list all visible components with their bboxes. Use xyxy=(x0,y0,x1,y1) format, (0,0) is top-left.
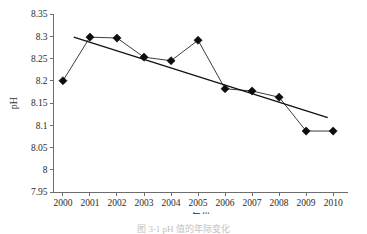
x-tick-label: 2000 xyxy=(53,198,72,208)
data-point-marker xyxy=(329,127,337,135)
ph-trend-chart: 7.9588.058.18.158.28.258.38.35 200020012… xyxy=(0,0,367,214)
y-axis-ticks: 7.9588.058.18.158.28.258.38.35 xyxy=(31,9,54,197)
x-axis-title: 年份 xyxy=(191,211,211,214)
data-point-marker xyxy=(59,77,67,85)
x-tick-label: 2008 xyxy=(270,198,289,208)
x-tick-label: 2004 xyxy=(162,198,181,208)
x-tick-label: 2003 xyxy=(135,198,154,208)
y-tick-label: 8.35 xyxy=(31,9,48,19)
data-point-marker xyxy=(248,87,256,95)
figure-caption: 图 3-1 pH 值的年际变化 xyxy=(0,224,367,234)
data-point-marker xyxy=(113,34,121,42)
y-tick-label: 8.15 xyxy=(31,98,48,108)
y-tick-label: 8.05 xyxy=(31,143,48,153)
data-point-marker xyxy=(86,33,94,41)
ph-series-line xyxy=(63,37,333,131)
x-tick-label: 2002 xyxy=(107,198,126,208)
x-tick-label: 2001 xyxy=(80,198,99,208)
y-tick-label: 8.25 xyxy=(31,54,48,64)
y-tick-label: 8.3 xyxy=(36,32,48,42)
data-point-marker xyxy=(167,57,175,65)
y-tick-label: 8.2 xyxy=(36,76,48,86)
x-tick-label: 2005 xyxy=(189,198,208,208)
data-point-marker xyxy=(194,36,202,44)
x-tick-label: 2010 xyxy=(324,198,343,208)
x-tick-label: 2007 xyxy=(243,198,262,208)
x-tick-label: 2006 xyxy=(216,198,235,208)
x-tick-label: 2009 xyxy=(297,198,316,208)
trend-line xyxy=(74,37,328,118)
y-tick-label: 8.1 xyxy=(36,121,48,131)
y-tick-label: 8 xyxy=(43,165,48,175)
x-axis-ticks: 2000200120022003200420052006200720082009… xyxy=(53,192,342,208)
ph-data-markers xyxy=(59,33,337,135)
y-axis-title: pH xyxy=(8,97,19,109)
figure-container: 7.9588.058.18.158.28.258.38.35 200020012… xyxy=(0,0,367,234)
y-tick-label: 7.95 xyxy=(31,187,48,197)
